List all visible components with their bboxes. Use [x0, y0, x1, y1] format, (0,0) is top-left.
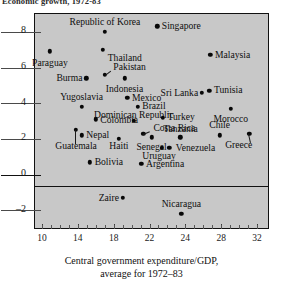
x-axis-minor-tick: [248, 225, 249, 229]
x-axis-minor-tick: [114, 225, 115, 229]
x-axis-minor-tick: [167, 225, 168, 229]
data-point: [208, 53, 212, 57]
data-point-label: Sri Lanka: [161, 88, 199, 98]
data-point: [125, 96, 129, 100]
x-axis-minor-tick: [239, 225, 240, 229]
data-point-label: Tanzania: [163, 124, 197, 134]
data-point-label: Greece: [225, 140, 252, 150]
data-point-label: Zaire: [99, 193, 119, 203]
data-point-label: Argentina: [146, 159, 184, 169]
x-axis-minor-tick: [221, 225, 222, 229]
data-point: [179, 212, 183, 216]
data-point: [178, 135, 182, 139]
y-axis-label: 0: [2, 168, 26, 178]
x-axis-minor-tick: [257, 225, 258, 229]
x-axis-label: 24: [181, 233, 191, 244]
x-axis-minor-tick: [42, 225, 43, 229]
x-axis-title-line2: average for 1972–83: [0, 268, 283, 281]
x-axis-label: 22: [145, 233, 155, 244]
x-axis-minor-tick: [203, 225, 204, 229]
y-axis-label: 2: [2, 132, 26, 142]
x-axis-minor-tick: [141, 225, 142, 229]
x-axis-minor-tick: [96, 225, 97, 229]
x-axis-minor-tick: [150, 225, 151, 229]
data-point: [120, 196, 124, 200]
data-point: [79, 133, 83, 137]
label-leader-line: [75, 130, 76, 144]
data-point: [149, 135, 153, 139]
plot-panel: Republic of KoreaSingaporeParaguayThaila…: [34, 13, 269, 229]
x-axis-minor-tick: [212, 225, 213, 229]
data-point: [103, 30, 107, 34]
data-point: [122, 76, 126, 80]
x-axis-title: Central government expenditure/GDP, aver…: [0, 255, 283, 280]
x-axis-label: 32: [252, 233, 262, 244]
y-axis-label: –2: [2, 204, 26, 214]
x-axis-title-line1: Central government expenditure/GDP,: [0, 255, 283, 268]
x-axis-minor-tick: [176, 225, 177, 229]
x-axis-label: 10: [37, 233, 47, 244]
x-axis-minor-tick: [60, 225, 61, 229]
y-axis-label: 8: [2, 25, 26, 35]
data-point: [48, 49, 52, 53]
y-axis-label: 4: [2, 97, 26, 107]
data-point: [200, 90, 204, 94]
y-axis-label: 6: [2, 61, 26, 71]
x-axis-minor-tick: [194, 225, 195, 229]
label-leader-line: [105, 71, 111, 76]
data-point: [84, 76, 88, 80]
data-point: [155, 24, 159, 28]
data-point-label: Yugoslavia: [60, 92, 103, 102]
data-point-label: Singapore: [162, 21, 201, 31]
x-axis-minor-tick: [105, 225, 106, 229]
data-point-label: Burma: [56, 73, 82, 83]
data-point-label: Nepal: [86, 130, 109, 140]
data-point: [229, 106, 233, 110]
data-point-label: Turkey: [167, 112, 194, 122]
data-point-label: Bolivia: [95, 157, 123, 167]
data-point-label: Guatemala: [55, 141, 97, 151]
data-point-label: Nicaragua: [162, 199, 201, 209]
x-axis-minor-tick: [87, 225, 88, 229]
data-point-label: Malaysia: [215, 50, 250, 60]
x-axis-minor-tick: [230, 225, 231, 229]
data-point-label: Pakistan: [113, 62, 146, 72]
data-point: [88, 160, 92, 164]
x-axis-label: 18: [109, 233, 119, 244]
data-point: [217, 133, 221, 137]
data-point: [207, 89, 211, 93]
x-axis-label: 14: [73, 233, 83, 244]
x-axis-minor-tick: [123, 225, 124, 229]
scatter-figure: Economic growth, 1972-83 Republic of Kor…: [0, 0, 283, 286]
x-axis-label: 28: [216, 233, 226, 244]
x-axis-minor-tick: [78, 225, 79, 229]
x-axis-minor-tick: [158, 225, 159, 229]
data-point: [101, 47, 105, 51]
data-point-label: Tunisia: [214, 85, 242, 95]
x-axis-minor-tick: [185, 225, 186, 229]
data-point: [79, 105, 83, 109]
zero-axis-line: [35, 186, 268, 187]
x-axis-minor-tick: [132, 225, 133, 229]
x-axis-minor-tick: [69, 225, 70, 229]
data-point-label: Haiti: [109, 141, 128, 151]
data-point-label: Republic of Korea: [70, 17, 141, 27]
x-axis-minor-tick: [51, 225, 52, 229]
cut-off-caption-fragment: Economic growth, 1972-83: [2, 0, 172, 6]
data-point-label: Chile: [209, 120, 230, 130]
data-point-label: Venezuela: [176, 143, 215, 153]
data-point: [139, 162, 143, 166]
data-point-label: Paraguay: [32, 58, 68, 68]
